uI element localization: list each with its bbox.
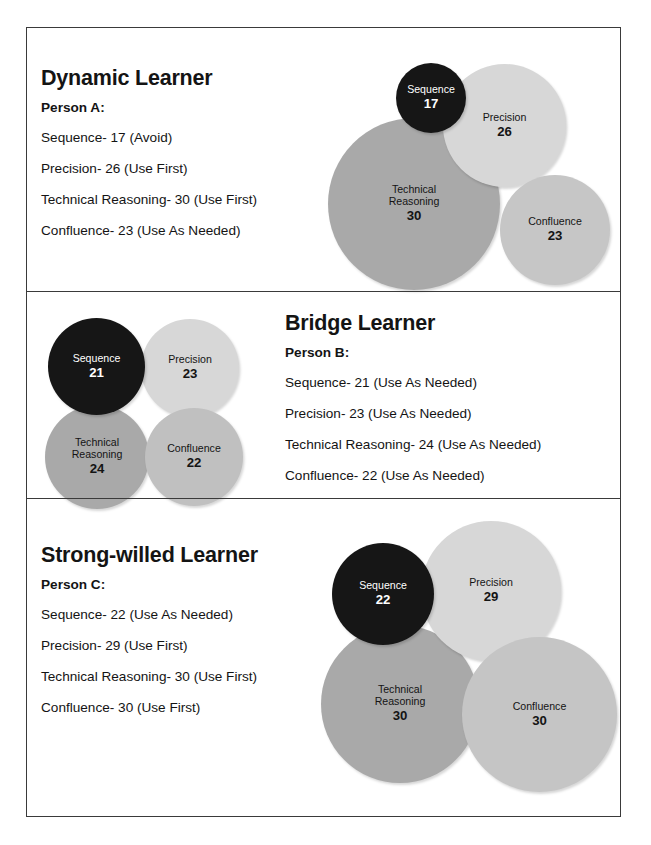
bubble-confluence-b: Confluence 22 (145, 408, 243, 506)
bubble-label-confluence-c: Confluence (513, 701, 567, 713)
bubble-label-precision-b: Precision (168, 354, 212, 366)
bubble-value-technical-reasoning-b: 24 (90, 462, 105, 477)
score-line-sequence-b: Sequence- 21 (Use As Needed) (285, 374, 541, 392)
bubble-sequence-a: Sequence 17 (396, 63, 466, 133)
person-label-a: Person A: (41, 100, 257, 115)
strong-text-block: Strong-willed Learner Person C: Sequence… (41, 543, 258, 730)
score-line-confluence-b: Confluence- 22 (Use As Needed) (285, 467, 541, 485)
bubble-label-sequence-b: Sequence (73, 353, 121, 365)
bubble-label-technical-reasoning-b-2: Reasoning (72, 449, 123, 461)
bubble-label-technical-reasoning-a-2: Reasoning (389, 196, 440, 208)
score-line-confluence-c: Confluence- 30 (Use First) (41, 699, 258, 717)
score-line-confluence-a: Confluence- 23 (Use As Needed) (41, 222, 257, 240)
panel-bridge-learner: Bridge Learner Person B: Sequence- 21 (U… (27, 291, 620, 498)
score-line-precision-b: Precision- 23 (Use As Needed) (285, 405, 541, 423)
bubble-value-sequence-a: 17 (424, 97, 439, 112)
bridge-text-block: Bridge Learner Person B: Sequence- 21 (U… (285, 311, 541, 498)
person-label-c: Person C: (41, 577, 258, 592)
bubble-value-sequence-b: 21 (89, 366, 104, 381)
bubble-label-sequence-a: Sequence (407, 84, 455, 96)
person-label-b: Person B: (285, 345, 541, 360)
figure-frame: Dynamic Learner Person A: Sequence- 17 (… (26, 27, 621, 817)
bubble-value-confluence-c: 30 (532, 714, 547, 729)
page-title-strong-willed: Strong-willed Learner (41, 543, 258, 568)
score-line-sequence-c: Sequence- 22 (Use As Needed) (41, 606, 258, 624)
bubble-confluence-a: Confluence 23 (500, 175, 610, 285)
bubble-value-technical-reasoning-c: 30 (393, 709, 408, 724)
panel-dynamic-learner: Dynamic Learner Person A: Sequence- 17 (… (27, 28, 620, 291)
bubble-label-confluence-a: Confluence (528, 216, 582, 228)
score-line-precision-c: Precision- 29 (Use First) (41, 637, 258, 655)
score-line-technical-reasoning-a: Technical Reasoning- 30 (Use First) (41, 191, 257, 209)
bubble-value-confluence-a: 23 (548, 229, 563, 244)
dynamic-text-block: Dynamic Learner Person A: Sequence- 17 (… (41, 66, 257, 253)
bubble-value-sequence-c: 22 (376, 593, 391, 608)
bubble-label-confluence-b: Confluence (167, 443, 221, 455)
bubble-label-precision-c: Precision (469, 577, 513, 589)
score-line-technical-reasoning-b: Technical Reasoning- 24 (Use As Needed) (285, 436, 541, 454)
bubble-value-precision-b: 23 (183, 367, 198, 382)
score-line-sequence-a: Sequence- 17 (Avoid) (41, 129, 257, 147)
bubble-value-confluence-b: 22 (187, 456, 202, 471)
bubble-sequence-b: Sequence 21 (48, 318, 145, 415)
bubble-value-precision-a: 26 (497, 125, 512, 140)
score-line-technical-reasoning-c: Technical Reasoning- 30 (Use First) (41, 668, 258, 686)
bubble-confluence-c: Confluence 30 (462, 637, 617, 792)
bubble-sequence-c: Sequence 22 (332, 543, 434, 645)
panel-divider-2 (27, 498, 620, 499)
bubble-technical-reasoning-b: Technical Reasoning 24 (45, 405, 149, 509)
panel-strong-willed-learner: Strong-willed Learner Person C: Sequence… (27, 498, 620, 816)
score-line-precision-a: Precision- 26 (Use First) (41, 160, 257, 178)
bubble-value-technical-reasoning-a: 30 (407, 209, 422, 224)
bubble-precision-b: Precision 23 (141, 319, 239, 417)
bubble-label-sequence-c: Sequence (359, 580, 407, 592)
bubble-value-precision-c: 29 (484, 590, 499, 605)
page-title-bridge: Bridge Learner (285, 311, 541, 336)
panel-divider-1 (27, 291, 620, 292)
bubble-label-technical-reasoning-c-2: Reasoning (375, 696, 426, 708)
page-title-dynamic: Dynamic Learner (41, 66, 257, 91)
bubble-label-precision-a: Precision (483, 112, 527, 124)
